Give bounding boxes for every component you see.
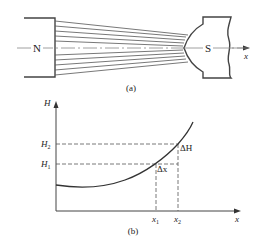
figure-a: N S x (a) (17, 17, 250, 93)
north-label: N (33, 42, 41, 54)
caption-b: (b) (128, 226, 139, 236)
x2-label: x2 (173, 214, 181, 225)
diagram: N S x (a) H x (0, 0, 262, 246)
x1-label: x1 (151, 214, 159, 225)
figure-b: H x H2 H1 x1 x2 ΔH Δx (b) (40, 98, 241, 236)
guide-lines (56, 144, 178, 211)
x-axis-label: x (234, 214, 239, 224)
x-axis-a-label: x (243, 51, 248, 61)
h1-label: H1 (40, 159, 51, 170)
h-curve (56, 122, 193, 187)
x-axis-arrow-icon (234, 209, 241, 214)
delta-x-label: Δx (157, 164, 168, 174)
y-axis-arrow-icon (54, 101, 59, 108)
h2-label: H2 (40, 139, 51, 150)
south-label: S (205, 42, 211, 54)
caption-a: (a) (126, 83, 136, 93)
y-axis-label: H (43, 98, 51, 108)
delta-h-label: ΔH (180, 143, 193, 153)
